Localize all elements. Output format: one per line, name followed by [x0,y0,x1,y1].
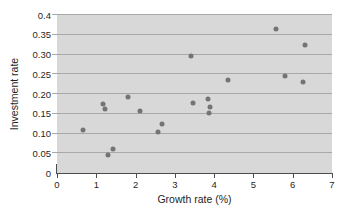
gridline [52,34,332,35]
data-point [159,121,164,126]
gridline [52,73,332,74]
y-tick-label: 0 [0,168,51,179]
x-tick-label: 5 [251,179,256,190]
gridline [52,152,332,153]
x-tick-mark [214,174,215,178]
x-tick-label: 6 [290,179,295,190]
data-point [106,152,111,157]
data-point [111,146,116,151]
data-point [300,80,305,85]
data-point [273,27,278,32]
gridline [52,93,332,94]
x-tick-mark [332,174,333,178]
data-point [190,101,195,106]
scatter-chart: 00.050.100.150.200.250.300.350.401234567… [0,0,351,216]
y-tick-label: 0.4 [0,10,51,21]
data-point [207,105,212,110]
y-tick-label: 0.05 [0,148,51,159]
gridline [52,133,332,134]
x-tick-label: 4 [211,179,216,190]
data-point [188,54,193,59]
x-tick-mark [57,174,58,178]
x-tick-mark [293,174,294,178]
gridline [52,113,332,114]
y-axis-corner-tick [56,164,57,173]
x-tick-mark [253,174,254,178]
y-axis-title: Investment rate [8,58,20,130]
data-point [225,78,230,83]
data-point [155,129,160,134]
x-axis-line [56,173,333,174]
data-point [302,43,307,48]
x-tick-label: 1 [94,179,99,190]
data-point [102,106,107,111]
data-point [126,95,131,100]
gridline [52,14,332,15]
data-point [137,108,142,113]
x-tick-label: 2 [133,179,138,190]
x-tick-label: 3 [172,179,177,190]
x-tick-mark [136,174,137,178]
x-tick-mark [96,174,97,178]
x-axis-title: Growth rate (%) [57,193,332,205]
x-tick-mark [175,174,176,178]
data-point [282,73,287,78]
x-tick-label: 7 [329,179,334,190]
data-point [80,127,85,132]
plot-area [57,15,332,173]
y-tick-label: 0.35 [0,29,51,40]
data-point [207,110,212,115]
x-tick-label: 0 [54,179,59,190]
data-point [205,97,210,102]
